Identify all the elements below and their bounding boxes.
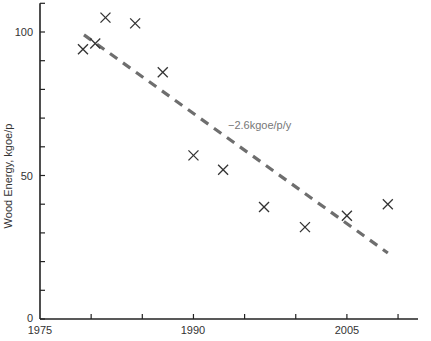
- trend-annotation: −2.6kgoe/p/y: [228, 119, 292, 131]
- x-marker-icon: [342, 211, 352, 221]
- y-tick-label-50: 50: [21, 170, 33, 182]
- x-marker-icon: [300, 222, 310, 232]
- x-marker-icon: [130, 18, 140, 28]
- x-tick-label-1975: 1975: [28, 324, 52, 336]
- x-marker-icon: [383, 199, 393, 209]
- x-marker-icon: [158, 67, 168, 77]
- x-marker-icon: [100, 13, 110, 23]
- x-marker-icon: [259, 202, 269, 212]
- x-marker-icon: [188, 150, 198, 160]
- x-marker-icon: [78, 44, 88, 54]
- y-tick-label-100: 100: [15, 26, 33, 38]
- labels: 100 50 0 1975 1990 2005 Wood Energy, kgo…: [2, 26, 359, 336]
- scatter-chart: 100 50 0 1975 1990 2005 Wood Energy, kgo…: [0, 0, 431, 341]
- y-axis-title: Wood Energy, kgoe/p: [2, 124, 14, 229]
- x-tick-label-1990: 1990: [181, 324, 205, 336]
- axes: [40, 3, 418, 319]
- x-marker-icon: [218, 165, 228, 175]
- y-tick-label-0: 0: [27, 312, 33, 324]
- x-tick-label-2005: 2005: [335, 324, 359, 336]
- x-marker-icon: [90, 38, 100, 48]
